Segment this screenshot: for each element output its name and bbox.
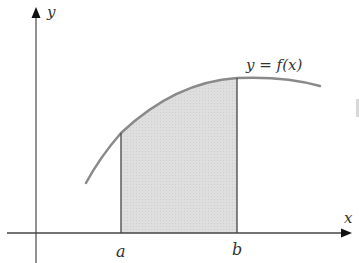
x-axis-label: x — [344, 209, 353, 227]
x-axis-arrow-icon — [341, 229, 352, 238]
bound-label-b: b — [232, 240, 242, 259]
curve-label: y = f(x) — [245, 56, 302, 74]
bound-label-a: a — [116, 242, 126, 261]
y-axis-arrow-icon — [32, 7, 41, 18]
area-under-curve-diagram: y x y = f(x) a b — [0, 0, 359, 263]
shaded-area — [121, 78, 237, 233]
y-axis-label: y — [46, 3, 56, 21]
